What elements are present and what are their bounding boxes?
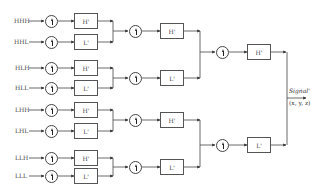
upsample-icon (45, 82, 58, 95)
filter-box-stage1: H' (74, 150, 98, 166)
filter-box-stage2: H' (160, 112, 184, 128)
filter-box-stage1: L' (74, 34, 98, 50)
upsample-icon (45, 152, 58, 165)
filter-box-stage1: L' (74, 168, 98, 184)
upsample-icon (216, 46, 229, 59)
input-label-lhl: LHL (15, 128, 28, 134)
input-label-lll: LLL (15, 173, 27, 179)
input-label-hlh: HLH (15, 65, 29, 71)
input-label-hhl: HHL (14, 39, 28, 45)
upsample-icon (129, 25, 142, 38)
filter-box-stage3: L' (247, 137, 271, 153)
filter-box-stage1: L' (74, 80, 98, 96)
output-coords-label: (x, y, z) (289, 100, 310, 106)
filter-box-stage1: L' (74, 123, 98, 139)
upsample-icon (45, 62, 58, 75)
upsample-icon (129, 161, 142, 174)
filter-box-stage2: L' (160, 70, 184, 86)
output-signal-label: Signal' (289, 88, 310, 94)
input-label-llh: LLH (15, 155, 28, 161)
upsample-icon (45, 36, 58, 49)
filter-box-stage1: H' (74, 102, 98, 118)
upsample-icon (45, 125, 58, 138)
upsample-icon (45, 170, 58, 183)
upsample-icon (216, 139, 229, 152)
upsample-icon (45, 15, 58, 28)
input-label-lhh: LHH (15, 107, 29, 113)
filter-box-stage2: H' (160, 23, 184, 39)
upsample-icon (45, 104, 58, 117)
upsample-icon (129, 72, 142, 85)
input-label-hll: HLL (15, 85, 28, 91)
input-label-hhh: HHH (14, 18, 30, 24)
filter-box-stage1: H' (74, 13, 98, 29)
upsample-icon (129, 114, 142, 127)
filter-box-stage2: L' (160, 159, 184, 175)
filter-box-stage1: H' (74, 60, 98, 76)
filter-box-stage3: H' (247, 44, 271, 60)
